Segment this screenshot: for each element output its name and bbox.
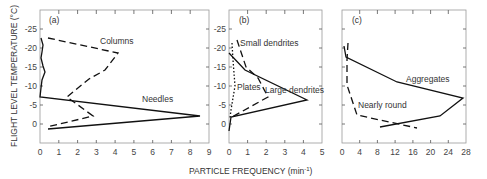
svg-text:-5: -5: [218, 100, 226, 110]
needles-label: Needles: [142, 94, 173, 104]
svg-text:-10: -10: [25, 81, 38, 91]
svg-text:4: 4: [113, 147, 118, 157]
svg-text:2: 2: [264, 147, 269, 157]
svg-text:16: 16: [408, 147, 418, 157]
svg-text:7: 7: [169, 147, 174, 157]
nearly-round-label: Nearly round: [358, 100, 407, 110]
svg-text:4: 4: [357, 147, 362, 157]
svg-text:2: 2: [75, 147, 80, 157]
panel-b-xtick-labels: 01 23 45: [227, 147, 325, 157]
svg-text:3: 3: [94, 147, 99, 157]
svg-text:0: 0: [38, 147, 43, 157]
plates-label: Plates: [237, 82, 261, 92]
svg-text:-20: -20: [214, 43, 227, 53]
svg-text:-25: -25: [25, 24, 38, 34]
figure: FLIGHT LEVEL TEMPERATURE (°C) 01 23 45: [0, 0, 487, 179]
panel-c: 04 812 1620 2428 (c) Aggregates Nearly r…: [340, 10, 471, 157]
aggregates-label: Aggregates: [406, 74, 449, 84]
svg-text:-15: -15: [214, 62, 227, 72]
svg-text:5: 5: [320, 147, 325, 157]
svg-text:8: 8: [375, 147, 380, 157]
svg-text:1: 1: [56, 147, 61, 157]
svg-text:4: 4: [301, 147, 306, 157]
svg-text:-10: -10: [214, 81, 227, 91]
panel-b-xticks: [248, 10, 304, 143]
svg-text:3: 3: [282, 147, 287, 157]
panel-b-frame: [229, 10, 322, 143]
svg-text:-20: -20: [25, 43, 38, 53]
nearly-round-line: [347, 43, 417, 128]
small-dendrites-label: Small dendrites: [240, 38, 299, 48]
svg-text:12: 12: [390, 147, 400, 157]
columns-line: [47, 38, 118, 127]
panel-a-tag: (a): [49, 15, 60, 25]
aggregates-line: [344, 46, 463, 127]
needles-line: [40, 38, 200, 129]
svg-text:0: 0: [227, 147, 232, 157]
svg-text:-5: -5: [29, 100, 37, 110]
svg-text:6: 6: [150, 147, 155, 157]
panel-a-xtick-labels: 01 23 45 67 89: [38, 147, 212, 157]
panel-c-tag: (c): [352, 15, 362, 25]
svg-text:8: 8: [188, 147, 193, 157]
svg-text:20: 20: [426, 147, 436, 157]
panel-c-xtick-labels: 04 812 1620 2428: [340, 147, 471, 157]
panel-a: 01 23 45 67 89 -25-20 -15-10 -50 (a) Col…: [25, 10, 212, 157]
svg-text:0: 0: [221, 119, 226, 129]
panel-b-tag: (b): [239, 15, 250, 25]
svg-text:-15: -15: [25, 62, 38, 72]
panel-b-ytick-labels: -25-20 -15-10 -50: [214, 24, 227, 129]
svg-text:0: 0: [32, 119, 37, 129]
svg-text:0: 0: [340, 147, 345, 157]
panel-a-ytick-labels: -25-20 -15-10 -50: [25, 24, 38, 129]
panel-b: 01 23 45 -25-20 -15-10 -50 (b) Small den…: [214, 10, 325, 157]
columns-label: Columns: [100, 36, 134, 46]
y-axis-title: FLIGHT LEVEL TEMPERATURE (°C): [9, 5, 19, 147]
svg-text:9: 9: [207, 147, 212, 157]
svg-text:28: 28: [461, 147, 471, 157]
svg-text:1: 1: [245, 147, 250, 157]
svg-text:-25: -25: [214, 24, 227, 34]
large-dendrites-label: Large dendrites: [265, 85, 324, 95]
x-axis-title: PARTICLE FREQUENCY (min-1): [189, 166, 313, 176]
svg-text:24: 24: [444, 147, 454, 157]
svg-text:5: 5: [132, 147, 137, 157]
